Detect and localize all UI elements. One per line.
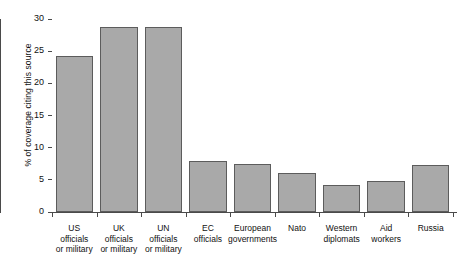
bar-slot — [408, 19, 453, 212]
bar[interactable] — [323, 185, 360, 212]
y-tick-label: 20 — [34, 77, 44, 88]
x-axis-label-line: governments — [222, 234, 283, 245]
bar[interactable] — [234, 164, 271, 212]
bar-chart: % of coverage citing this source 0510152… — [0, 0, 465, 269]
y-axis-line — [0, 19, 1, 213]
x-tick-mark — [52, 213, 53, 217]
x-axis-label-line: Russia — [400, 223, 461, 234]
x-axis-labels: USofficialsor militaryUKofficialsor mili… — [52, 223, 453, 267]
x-axis-label: Russia — [400, 223, 461, 234]
y-tick-label: 30 — [34, 13, 44, 24]
x-tick-mark — [319, 213, 320, 217]
x-axis-ticks — [52, 213, 453, 221]
bar[interactable] — [412, 165, 449, 212]
bar-slot — [364, 19, 409, 212]
bar-slot — [230, 19, 275, 212]
bar[interactable] — [56, 56, 93, 212]
y-tick-label: 15 — [34, 110, 44, 121]
x-axis-label-line: workers — [356, 234, 417, 245]
bar[interactable] — [189, 161, 226, 212]
x-tick-mark — [453, 213, 454, 217]
bar-slot — [141, 19, 186, 212]
y-tick-label: 25 — [34, 45, 44, 56]
x-tick-mark — [186, 213, 187, 217]
bar-slot — [186, 19, 231, 212]
x-tick-mark — [275, 213, 276, 217]
bar-slot — [319, 19, 364, 212]
y-tick-label: 0 — [39, 206, 44, 217]
bar[interactable] — [100, 27, 137, 212]
bar[interactable] — [145, 27, 182, 212]
y-tick-label: 10 — [34, 142, 44, 153]
x-axis-label-line: or military — [133, 244, 194, 255]
bar-slot — [52, 19, 97, 212]
y-axis-title: % of coverage citing this source — [23, 15, 33, 195]
bar[interactable] — [367, 181, 404, 212]
x-tick-mark — [97, 213, 98, 217]
bar-slot — [275, 19, 320, 212]
x-tick-mark — [141, 213, 142, 217]
x-tick-mark — [364, 213, 365, 217]
x-tick-mark — [408, 213, 409, 217]
bar[interactable] — [278, 173, 315, 212]
bar-slot — [97, 19, 142, 212]
bars-layer — [52, 19, 453, 212]
y-tick-label: 5 — [39, 174, 44, 185]
x-tick-mark — [230, 213, 231, 217]
